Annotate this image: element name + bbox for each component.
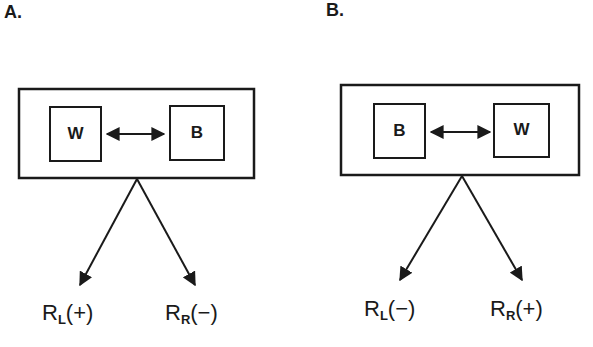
response-sign: (+) (66, 300, 94, 325)
panel-b-left-stimulus-label: B (374, 121, 425, 141)
response-subscript: R (506, 308, 515, 323)
response-base: R (364, 296, 380, 321)
panel-a-left-stimulus-label: W (50, 124, 101, 144)
response-base: R (490, 296, 506, 321)
response-sign: (+) (515, 296, 543, 321)
panel-b-left-response-arrow-icon (400, 176, 462, 280)
panel-b-right-stimulus-label: W (494, 120, 549, 140)
response-sign: (−) (388, 296, 416, 321)
panel-a-right-response: RR(−) (165, 300, 218, 327)
response-sign: (−) (190, 300, 218, 325)
response-subscript: R (181, 312, 190, 327)
panel-a-left-response-arrow-icon (80, 179, 137, 285)
panel-b-right-response: RR(+) (490, 296, 543, 323)
panel-b-label: B. (326, 0, 344, 21)
panel-b-left-response: RL(−) (364, 296, 415, 323)
response-subscript: L (380, 308, 388, 323)
panel-a-right-response-arrow-icon (137, 179, 195, 285)
panel-a-left-response: RL(+) (42, 300, 93, 327)
panel-a-right-stimulus-label: B (170, 123, 224, 143)
response-base: R (42, 300, 58, 325)
panel-a-graphics (19, 89, 254, 285)
panel-b-right-response-arrow-icon (462, 176, 522, 280)
diagram-lines (0, 0, 593, 347)
panel-b-graphics (341, 85, 579, 280)
response-base: R (165, 300, 181, 325)
panel-a-label: A. (4, 2, 22, 23)
response-subscript: L (58, 312, 66, 327)
